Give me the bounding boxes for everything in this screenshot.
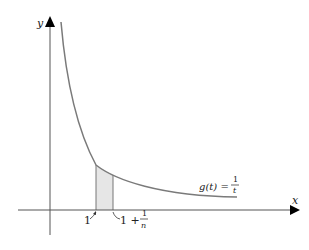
- shaded-area: [96, 165, 113, 210]
- curve-label-den: t: [233, 186, 237, 195]
- point-right-label-den: n: [141, 221, 146, 230]
- point-one-label: 1: [84, 214, 91, 227]
- curve-label-num: 1: [233, 175, 238, 184]
- curve-g: [61, 22, 237, 197]
- point-right-label-prefix: 1 +: [120, 214, 140, 227]
- point-right-label-num: 1: [142, 209, 147, 218]
- curve-label-lhs: g(t) =: [199, 181, 229, 192]
- point-one-arrowhead-icon: [93, 211, 96, 215]
- diagram: y x g(t) = 1 t 1 1 + 1 n: [0, 0, 309, 250]
- y-axis-arrow-icon: [45, 16, 55, 27]
- point-right-arrow-icon: [113, 212, 120, 219]
- x-axis-label: x: [292, 194, 299, 207]
- y-axis-label: y: [36, 17, 44, 30]
